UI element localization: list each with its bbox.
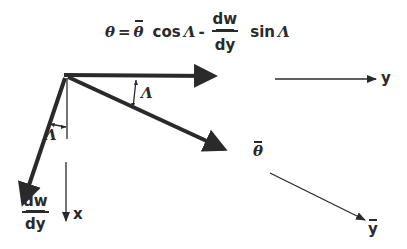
dw-dy-fraction: dw dy	[22, 194, 49, 232]
eq-cos: cos	[153, 23, 181, 41]
dw-dy-label: dw dy	[22, 194, 49, 232]
eq-sin: sin	[250, 23, 275, 41]
horizontal-vector	[64, 75, 214, 76]
y-bar-axis-arrow	[270, 173, 365, 220]
angle-label-left: Λ	[45, 128, 57, 143]
dw-label-denominator: dy	[25, 213, 46, 232]
eq-equals: =	[118, 23, 131, 41]
eq-lhs-theta: θ	[105, 23, 115, 41]
eq-lambda-1: Λ	[184, 23, 196, 41]
eq-theta-bar: θ	[134, 23, 144, 41]
dw-dy-vector	[23, 78, 65, 203]
x-axis-label: x	[73, 207, 83, 222]
eq-frac-denominator: dy	[215, 32, 236, 54]
eq-lambda-2: Λ	[278, 23, 290, 41]
eq-fraction: dw dy	[212, 10, 242, 54]
theta-bar-label: θ	[253, 144, 263, 159]
angle-label-top: Λ	[141, 86, 153, 101]
y-axis-label: y	[381, 71, 391, 86]
equation: θ = θ cos Λ - dw dy sin Λ	[105, 10, 293, 54]
eq-minus: -	[198, 23, 204, 41]
y-bar-axis-label: y	[368, 222, 378, 237]
